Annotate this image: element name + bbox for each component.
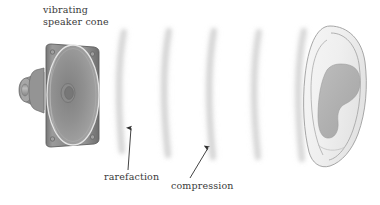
speaker-cone	[47, 45, 99, 145]
screw-icon	[90, 52, 94, 56]
screw-icon	[90, 135, 94, 139]
speaker	[19, 44, 99, 147]
wavefront-group	[119, 30, 304, 160]
rarefaction-arrow	[128, 128, 131, 170]
label-vibrating-speaker-cone: vibrating speaker cone	[43, 4, 109, 27]
figure-canvas: vibrating speaker cone rarefaction compr…	[0, 0, 380, 205]
compression-arrow	[190, 148, 208, 178]
sound-wave-diagram	[0, 0, 380, 205]
label-vibrating-speaker-cone-line2: speaker cone	[43, 16, 109, 28]
screw-icon	[50, 137, 54, 141]
label-rarefaction: rarefaction	[104, 171, 159, 183]
speaker-magnet	[19, 68, 44, 113]
label-compression: compression	[171, 180, 234, 192]
human-ear	[304, 26, 367, 167]
label-vibrating-speaker-cone-line1: vibrating	[43, 4, 109, 16]
screw-icon	[50, 50, 54, 54]
